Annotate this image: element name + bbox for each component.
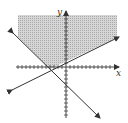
x-axis — [16, 65, 119, 69]
y-axis-label: y — [56, 7, 63, 17]
x-axis-label: x — [116, 68, 121, 78]
inequality-graph: x y — [0, 0, 128, 123]
